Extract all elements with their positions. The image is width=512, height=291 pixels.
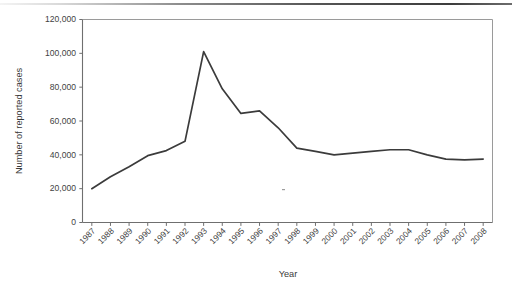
x-tick-label: 1999 bbox=[301, 226, 321, 246]
data-series-line bbox=[92, 52, 483, 189]
axis-lines bbox=[83, 20, 493, 223]
x-tick-label: 1992 bbox=[170, 226, 190, 246]
x-tick-label: 1993 bbox=[189, 226, 209, 246]
x-tick-label: 2001 bbox=[338, 226, 358, 246]
y-tick-label: 0 bbox=[71, 217, 76, 227]
x-tick-label: 1991 bbox=[152, 226, 172, 246]
x-tick-label: 2004 bbox=[394, 226, 414, 246]
x-axis-tick-labels: 1987198819891990199119921993199419951996… bbox=[77, 226, 489, 246]
x-tick-label: 2008 bbox=[468, 226, 488, 246]
y-tick-label: 100,000 bbox=[45, 48, 76, 58]
x-tick-label: 2005 bbox=[412, 226, 432, 246]
x-tick-label: 2000 bbox=[319, 226, 339, 246]
x-tick-label: 1987 bbox=[77, 226, 97, 246]
x-tick-label: 2002 bbox=[357, 226, 377, 246]
x-tick-label: 1998 bbox=[282, 226, 302, 246]
y-tick-label: 20,000 bbox=[50, 183, 77, 193]
scan-speck bbox=[282, 189, 285, 190]
y-tick-label: 60,000 bbox=[50, 116, 77, 126]
plot-frame bbox=[83, 20, 493, 223]
x-axis-title: Year bbox=[279, 269, 298, 279]
y-axis-title: Number of reported cases bbox=[14, 67, 24, 174]
figure-container: 020,00040,00060,00080,000100,000120,000 … bbox=[0, 0, 512, 291]
x-tick-label: 1997 bbox=[263, 226, 283, 246]
line-chart: 020,00040,00060,00080,000100,000120,000 … bbox=[0, 0, 512, 291]
y-tick-label: 120,000 bbox=[45, 14, 76, 24]
x-tick-label: 2007 bbox=[450, 226, 470, 246]
x-tick-label: 1995 bbox=[226, 226, 246, 246]
x-tick-label: 1996 bbox=[245, 226, 265, 246]
x-tick-label: 2003 bbox=[375, 226, 395, 246]
y-tick-label: 80,000 bbox=[50, 82, 77, 92]
x-tick-label: 1989 bbox=[114, 226, 134, 246]
x-tick-label: 1988 bbox=[96, 226, 116, 246]
x-tick-label: 1990 bbox=[133, 226, 153, 246]
y-tick-label: 40,000 bbox=[50, 150, 77, 160]
y-axis-tick-labels: 020,00040,00060,00080,000100,000120,000 bbox=[45, 14, 76, 227]
x-tick-label: 2006 bbox=[431, 226, 451, 246]
chart-plot-svg: 020,00040,00060,00080,000100,000120,000 … bbox=[0, 0, 512, 291]
x-tick-label: 1994 bbox=[207, 226, 227, 246]
